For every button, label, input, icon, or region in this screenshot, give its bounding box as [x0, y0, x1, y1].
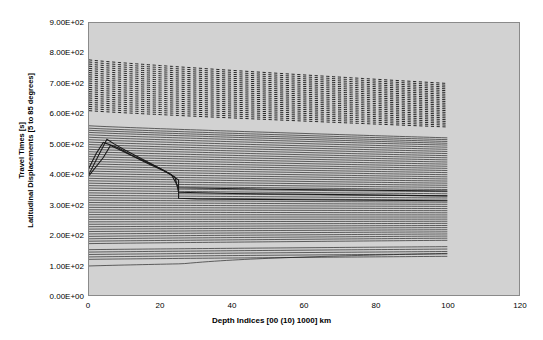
y-tick-label: 9.00E+02 [50, 18, 84, 27]
plot-curves [89, 23, 519, 295]
x-axis-label: Depth Indices [00 (10) 1000] km [0, 316, 543, 325]
curve [89, 230, 447, 232]
y-tick-label: 1.00E+02 [50, 261, 84, 270]
curve [89, 228, 447, 230]
y-tick-label: 3.00E+02 [50, 200, 84, 209]
y-axis-label-line1: Travel Times [s] [17, 122, 27, 179]
x-tick-label: 40 [228, 301, 237, 310]
y-tick-label: 8.00E+02 [50, 48, 84, 57]
x-tick-label: 80 [372, 301, 381, 310]
curve [89, 212, 447, 213]
curve [89, 104, 447, 121]
curve [89, 207, 447, 208]
curve [89, 137, 447, 147]
curve [89, 109, 447, 126]
curve [89, 205, 447, 207]
chart-figure: Travel Times [s] Latitudinal Displacemen… [0, 0, 543, 340]
curve [89, 183, 447, 187]
x-tick-label: 60 [300, 301, 309, 310]
y-tick-label: 6.00E+02 [50, 109, 84, 118]
curve [89, 256, 447, 259]
curve [89, 102, 447, 120]
x-tick-label: 20 [156, 301, 165, 310]
curve [89, 210, 447, 211]
y-tick-label: 5.00E+02 [50, 139, 84, 148]
x-tick-label: 100 [441, 301, 454, 310]
x-tick-label: 120 [513, 301, 526, 310]
curve [89, 60, 447, 84]
curve [89, 232, 447, 234]
curve [89, 221, 447, 222]
plot-area [88, 22, 520, 296]
y-axis-tick-labels: 0.00E+001.00E+022.00E+023.00E+024.00E+02… [30, 0, 84, 340]
curve [89, 225, 447, 226]
curve [89, 106, 447, 123]
x-tick-label: 0 [86, 301, 90, 310]
curve [89, 64, 447, 87]
curve [89, 181, 447, 186]
curve [89, 234, 447, 236]
y-tick-label: 2.00E+02 [50, 231, 84, 240]
curve [89, 203, 447, 205]
curve [89, 66, 447, 89]
curve [89, 62, 447, 85]
y-tick-label: 0.00E+00 [50, 292, 84, 301]
curve [89, 111, 447, 127]
curve [89, 140, 447, 150]
y-tick-label: 4.00E+02 [50, 170, 84, 179]
y-tick-label: 7.00E+02 [50, 78, 84, 87]
curve [89, 223, 447, 224]
curve [89, 100, 447, 118]
